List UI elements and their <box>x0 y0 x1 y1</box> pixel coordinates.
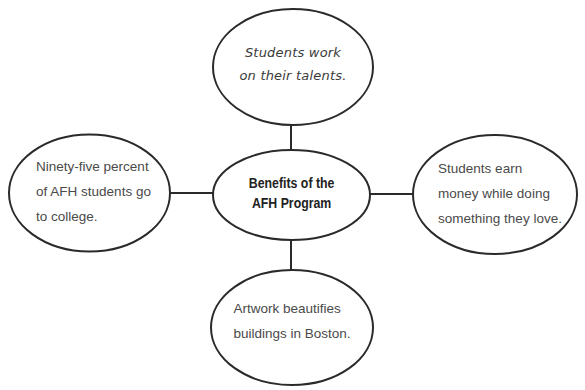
left-node-text: Ninety-five percent of AFH students go t… <box>36 154 151 229</box>
bottom-node-text: Artwork beautifies buildings in Boston. <box>233 296 350 346</box>
bottom-node-line-1: Artwork beautifies <box>233 296 350 321</box>
right-node: Students earn money while doing somethin… <box>413 135 577 254</box>
top-node-line-1: Students work <box>239 41 346 64</box>
right-node-line-2: money while doing <box>438 181 562 206</box>
top-node: Students work on their talents. <box>213 9 373 125</box>
left-node-line-3: to college. <box>36 204 151 229</box>
left-node-line-2: of AFH students go <box>36 179 151 204</box>
top-node-text: Students work on their talents. <box>239 41 346 87</box>
bottom-node-line-2: buildings in Boston. <box>233 321 350 346</box>
right-node-line-3: something they love. <box>438 206 562 231</box>
right-node-line-1: Students earn <box>438 156 562 181</box>
left-node-line-1: Ninety-five percent <box>36 154 151 179</box>
left-node: Ninety-five percent of AFH students go t… <box>9 134 170 251</box>
center-node-text: Benefits of the AFH Program <box>249 173 335 213</box>
center-node: Benefits of the AFH Program <box>213 150 370 240</box>
top-node-line-2: on their talents. <box>239 64 346 87</box>
center-node-line-2: AFH Program <box>249 193 335 213</box>
center-node-line-1: Benefits of the <box>249 173 335 193</box>
bottom-node: Artwork beautifies buildings in Boston. <box>211 270 373 385</box>
right-node-text: Students earn money while doing somethin… <box>438 156 562 231</box>
